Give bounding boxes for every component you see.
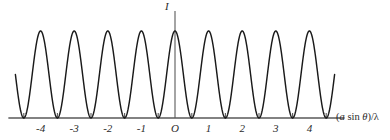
- x-axis-label: (a sin θ)/λ: [336, 112, 379, 123]
- x-axis-label-lambda: λ: [374, 111, 379, 122]
- plot-area: [0, 0, 390, 140]
- x-tick-label: 1: [195, 123, 223, 134]
- x-tick-label: 3: [262, 123, 290, 134]
- interference-intensity-figure: I (a sin θ)/λ -4-3-2-1O1234: [0, 0, 390, 140]
- y-axis-label: I: [165, 1, 169, 12]
- x-tick-label: 4: [295, 123, 323, 134]
- x-axis-label-sin: sin: [345, 111, 363, 122]
- x-tick-label: 2: [228, 123, 256, 134]
- x-tick-label: O: [161, 123, 189, 134]
- x-tick-label: -1: [127, 123, 155, 134]
- x-tick-label: -2: [94, 123, 122, 134]
- x-tick-label: -4: [27, 123, 55, 134]
- axes-group: [8, 11, 344, 118]
- x-tick-label: -3: [60, 123, 88, 134]
